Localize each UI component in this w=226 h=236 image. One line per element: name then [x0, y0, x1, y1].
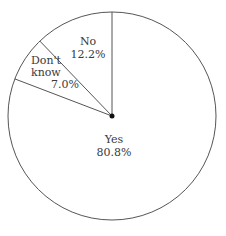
label-yes-name: Yes — [104, 133, 124, 146]
label-no-name: No — [80, 35, 97, 48]
label-no-pct: 12.2% — [71, 48, 106, 61]
label-yes-pct: 80.8% — [97, 146, 132, 159]
pie-chart: No 12.2% Don't know 7.0% Yes 80.8% — [0, 0, 226, 236]
center-dot — [110, 114, 115, 119]
label-dontknow-pct: 7.0% — [51, 78, 79, 91]
